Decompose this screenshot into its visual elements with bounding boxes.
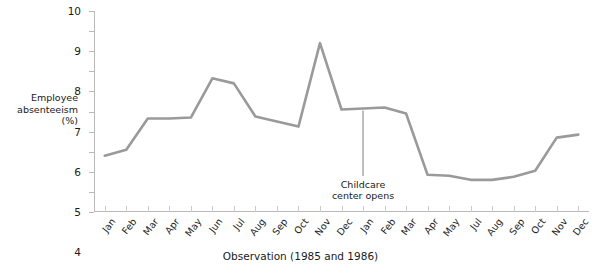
x-axis-tick-label: Dec — [334, 216, 354, 237]
x-axis-tick-label: Oct — [292, 216, 311, 236]
x-axis-tick-label: Dec — [571, 216, 591, 237]
y-axis-title-line-1: Employee — [6, 92, 78, 104]
y-axis-tick-label: 8 — [74, 85, 81, 97]
y-axis-title-line-2: absenteeism — [6, 104, 78, 116]
x-axis-tick-label: Feb — [378, 216, 397, 236]
y-axis-tick-label: 6 — [74, 166, 81, 178]
x-axis-tick-label: Jan — [358, 216, 376, 235]
y-axis-tick-label: 9 — [74, 45, 81, 57]
y-axis-tick: 0 — [89, 212, 94, 213]
x-axis-tick-label: Mar — [141, 216, 161, 237]
x-axis-tick-label: Aug — [248, 216, 268, 238]
x-axis-tick-label: Sep — [270, 216, 290, 237]
x-axis-tick-label: Oct — [529, 216, 548, 236]
y-axis-tick-label: 10 — [68, 5, 81, 17]
x-axis-tick-label: Jan — [100, 216, 118, 235]
x-axis-tick-label: Mar — [399, 216, 419, 237]
x-axis-tick-label: Apr — [163, 216, 182, 236]
x-axis-tick-label: Jul — [231, 216, 247, 232]
x-axis-tick-label: May — [183, 216, 204, 238]
x-axis-tick-label: May — [441, 216, 462, 238]
annotation-line-1: Childcare — [332, 179, 394, 190]
x-axis-tick-label: Aug — [485, 216, 505, 238]
x-axis-tick-label: Sep — [506, 216, 526, 237]
annotation-childcare-center-opens: Childcare center opens — [332, 179, 394, 201]
y-axis-tick-label: 7 — [74, 126, 81, 138]
x-axis-tick-label: Jul — [467, 216, 483, 232]
y-axis-title: Employee absenteeism (%) — [6, 92, 78, 127]
annotation-line-2: center opens — [332, 190, 394, 201]
x-axis-tick-label: Nov — [312, 216, 332, 238]
chart-figure: Employee absenteeism (%) 012345678910 Ja… — [0, 0, 601, 270]
x-axis-title: Observation (1985 and 1986) — [0, 250, 601, 262]
x-axis-tick-label: Feb — [120, 216, 139, 236]
x-axis-tick-label: Nov — [549, 216, 569, 238]
y-axis-tick-label: 5 — [74, 206, 81, 218]
x-axis-tick-label: Jun — [207, 216, 225, 235]
y-axis-title-line-3: (%) — [6, 115, 78, 127]
x-axis-tick-label: Apr — [421, 216, 440, 236]
